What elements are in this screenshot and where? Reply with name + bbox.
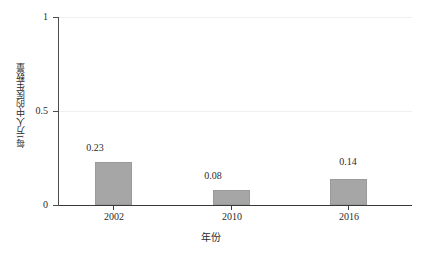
x-axis-title: 年份 — [0, 229, 422, 244]
bar-value-label-2016: 0.14 — [323, 157, 373, 167]
y-tick-label-1: 1 — [8, 12, 48, 22]
bar-2016[interactable] — [330, 179, 367, 205]
y-tick-label-0: 0 — [8, 200, 48, 210]
bar-chart: 1 0.5 0 0.23 0.08 0.14 2002 2010 2016 年份… — [0, 0, 422, 255]
x-tick-mark-2010 — [231, 206, 232, 210]
x-tick-label-2002: 2002 — [84, 211, 144, 223]
y-tick-mark-0 — [53, 205, 59, 206]
y-axis-title: 每1万人中的医生数量 — [13, 30, 27, 180]
bar-2010[interactable] — [213, 190, 250, 205]
bar-2002[interactable] — [95, 162, 132, 205]
x-axis-line — [58, 205, 412, 206]
bar-value-label-2002: 0.23 — [70, 143, 120, 153]
x-tick-label-2016: 2016 — [319, 211, 379, 223]
x-tick-mark-2002 — [113, 206, 114, 210]
x-tick-label-2010: 2010 — [202, 211, 262, 223]
bar-value-label-2010: 0.08 — [188, 171, 238, 181]
x-tick-mark-2016 — [348, 206, 349, 210]
